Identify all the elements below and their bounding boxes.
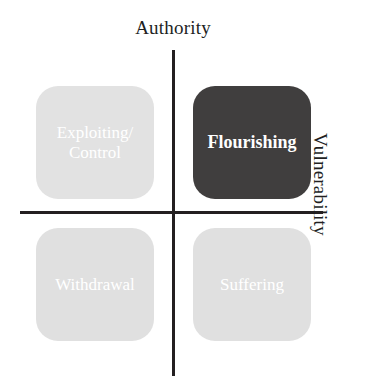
quadrant-label-exploiting-control: Exploiting/ Control — [53, 123, 138, 161]
quadrant-label-line-2: Control — [69, 143, 121, 162]
quadrant-exploiting-control: Exploiting/ Control — [36, 86, 154, 199]
quadrant-label-withdrawal: Withdrawal — [51, 275, 139, 294]
quadrant-label-line-1: Exploiting/ — [57, 123, 134, 142]
axis-label-vulnerability: Vulnerability — [309, 133, 331, 236]
quadrant-withdrawal: Withdrawal — [36, 228, 154, 341]
axis-label-authority: Authority — [0, 17, 346, 39]
quadrant-diagram: Authority Vulnerability Exploiting/ Cont… — [0, 0, 381, 383]
quadrant-suffering: Suffering — [193, 228, 311, 341]
quadrant-flourishing: Flourishing — [193, 86, 311, 199]
quadrant-label-flourishing: Flourishing — [203, 132, 300, 152]
axis-horizontal-line — [20, 211, 323, 214]
quadrant-label-suffering: Suffering — [216, 275, 288, 294]
